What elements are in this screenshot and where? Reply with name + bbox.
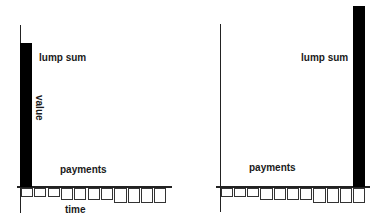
- payment-box: [101, 188, 113, 200]
- lump-sum-label: lump sum: [301, 52, 348, 63]
- payment-box: [48, 188, 60, 197]
- payments-label: payments: [249, 162, 296, 173]
- lump-sum-bar: [353, 6, 365, 187]
- payment-box: [154, 188, 166, 203]
- value-axis: [220, 24, 221, 212]
- payment-box: [61, 188, 73, 200]
- left-diagram: lump sum value payments time: [0, 0, 190, 224]
- payment-box: [247, 188, 259, 197]
- payment-box: [353, 188, 365, 203]
- payment-box: [74, 188, 86, 200]
- payment-box: [300, 188, 312, 200]
- payment-box: [313, 188, 326, 203]
- payment-box: [21, 188, 33, 197]
- payment-box: [274, 188, 286, 200]
- payment-box: [260, 188, 273, 200]
- right-diagram: lump sum payments: [190, 0, 380, 224]
- payment-box: [327, 188, 339, 203]
- payment-box: [34, 188, 46, 197]
- payment-box: [234, 188, 246, 197]
- payment-box: [128, 188, 140, 203]
- payment-box: [88, 188, 100, 200]
- lump-sum-label: lump sum: [39, 52, 86, 63]
- payment-box: [141, 188, 153, 203]
- time-label: time: [65, 204, 86, 215]
- value-label: value: [34, 95, 45, 121]
- payment-box: [340, 188, 352, 203]
- payment-box: [114, 188, 127, 203]
- payments-label: payments: [60, 164, 107, 175]
- payment-box: [221, 188, 233, 197]
- lump-sum-bar: [20, 43, 32, 187]
- payment-box: [287, 188, 299, 200]
